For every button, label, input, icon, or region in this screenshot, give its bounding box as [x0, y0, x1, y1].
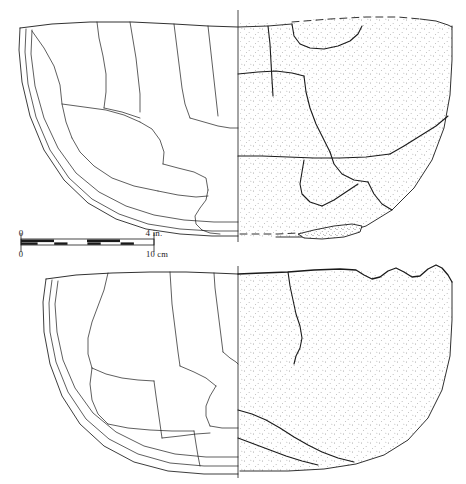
- vessel-illustration-svg: 0 4 in. 0 10 cm: [0, 0, 466, 484]
- illustration-plate: 0 4 in. 0 10 cm: [0, 0, 466, 484]
- scale-metric-start-label: 0: [19, 249, 23, 259]
- scale-metric-end-label: 10 cm: [146, 249, 168, 259]
